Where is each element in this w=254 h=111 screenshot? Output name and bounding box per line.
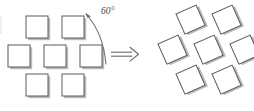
- square-right-r2c3: [230, 34, 254, 66]
- square-right-r2c1: [158, 34, 190, 66]
- square-left-r3c1: [26, 74, 50, 98]
- square-left-clipped-edge: [0, 17, 1, 33]
- square-left-r1c2: [62, 16, 86, 40]
- square-right-r3c2: [212, 64, 244, 96]
- square-left-r2c2: [44, 45, 68, 69]
- left-square-lattice: [8, 16, 104, 98]
- right-square-lattice: [158, 4, 254, 96]
- square-right-r2c2: [194, 34, 226, 66]
- square-right-r1c2: [212, 4, 244, 36]
- double-right-arrow-icon: [111, 47, 139, 61]
- rotation-diagram: 60°: [0, 0, 254, 111]
- square-right-r1c1: [176, 4, 208, 36]
- diagram-canvas: [0, 0, 254, 111]
- square-right-r3c1: [176, 64, 208, 96]
- square-left-r2c3: [80, 45, 104, 69]
- square-left-r3c2: [62, 74, 86, 98]
- arrowhead-icon: [86, 14, 90, 18]
- square-left-r1c1: [26, 16, 50, 40]
- angle-label-60-degrees: 60°: [101, 6, 115, 16]
- square-left-r2c1: [8, 45, 32, 69]
